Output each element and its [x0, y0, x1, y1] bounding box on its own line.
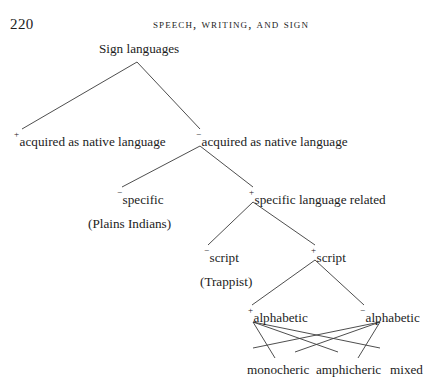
edge-alphabetic-plus-to-mixed: [253, 322, 380, 348]
feature-sign-minus: −: [117, 187, 122, 197]
tree-node-specific-minus: −specific: [117, 188, 164, 208]
tree-node-alphabetic-minus-label: alphabetic: [366, 310, 420, 325]
running-head: Speech, Writing, and Sign: [0, 17, 444, 32]
edge-script-plus-to-alphabetic-minus: [315, 260, 364, 305]
terminal-amphicheric: amphicheric: [316, 362, 381, 378]
tree-node-script-plus: +script: [311, 246, 346, 266]
edge-alphabetic-minus-to-amphicheric: [295, 322, 380, 352]
feature-sign-minus: −: [204, 245, 209, 255]
edge-root-to-acquired-minus: [137, 62, 200, 129]
edge-alphabetic-plus-to-amphicheric: [253, 322, 338, 352]
tree-node-alphabetic-plus: +alphabetic: [248, 306, 308, 326]
edge-alphabetic-plus-to-monocheric: [253, 322, 275, 358]
feature-sign-plus: +: [249, 187, 254, 197]
terminal-monocheric: monocheric: [247, 362, 309, 378]
tree-node-acquired-plus-label: acquired as native language: [20, 134, 166, 149]
feature-sign-plus: +: [14, 129, 19, 139]
gloss-trappist: (Trappist): [200, 274, 252, 290]
terminal-mixed: mixed: [390, 362, 423, 378]
tree-node-script-minus: −script: [204, 246, 239, 266]
feature-sign-minus: −: [196, 129, 201, 139]
tree-node-alphabetic-plus-label: alphabetic: [254, 310, 308, 325]
tree-node-specific-plus-label: specific language related: [255, 192, 386, 207]
tree-node-acquired-plus: +acquired as native language: [14, 130, 166, 150]
book-page: 220 Speech, Writing, and Sign Sign langu…: [0, 0, 444, 389]
tree-node-script-plus-label: script: [317, 250, 346, 265]
tree-node-root-label: Sign languages: [99, 41, 179, 56]
feature-sign-minus: −: [360, 305, 365, 315]
tree-node-script-minus-label: script: [210, 250, 239, 265]
edge-acquired-minus-to-specific-minus: [122, 146, 200, 187]
edge-acquired-minus-to-specific-plus: [200, 146, 253, 187]
tree-node-specific-plus: +specific language related: [249, 188, 386, 208]
tree-node-acquired-minus: −acquired as native language: [196, 130, 348, 150]
edge-root-to-acquired-plus: [22, 62, 137, 129]
feature-sign-plus: +: [248, 305, 253, 315]
edge-specific-plus-to-script-plus: [253, 202, 315, 245]
tree-node-root: Sign languages: [99, 42, 179, 57]
tree-node-alphabetic-minus: −alphabetic: [360, 306, 420, 326]
edge-alphabetic-minus-to-monocheric: [253, 322, 380, 348]
tree-node-specific-minus-label: specific: [123, 192, 164, 207]
edge-alphabetic-minus-to-mixed: [358, 322, 380, 358]
gloss-plains-indians: (Plains Indians): [88, 216, 171, 232]
feature-sign-plus: +: [311, 245, 316, 255]
edge-script-plus-to-alphabetic-plus: [252, 260, 315, 305]
edge-specific-plus-to-script-minus: [208, 202, 253, 245]
tree-node-acquired-minus-label: acquired as native language: [202, 134, 348, 149]
